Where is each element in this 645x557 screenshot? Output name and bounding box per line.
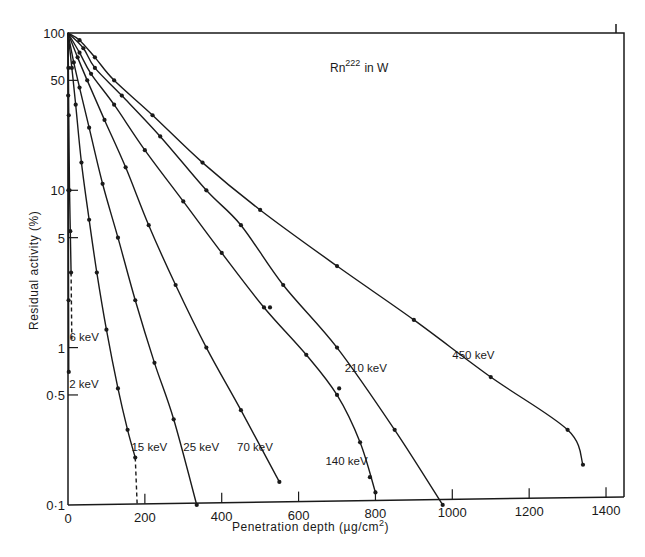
data-point <box>174 283 178 287</box>
series-group: 2 keV6 keV15 keV25 keV70 keV140 keV210 k… <box>66 33 585 507</box>
x-tick-label: 200 <box>134 510 156 525</box>
plot-frame <box>68 24 624 505</box>
data-point <box>95 270 99 274</box>
y-tick-label: 5 <box>58 231 65 246</box>
y-tick-label: 100 <box>43 26 65 41</box>
data-point <box>373 490 377 494</box>
series-label: 140 keV <box>325 455 368 467</box>
data-point <box>93 66 97 70</box>
data-point <box>74 103 78 107</box>
data-point <box>124 165 128 169</box>
data-point <box>77 85 81 89</box>
data-point <box>87 126 91 130</box>
curve-line <box>68 33 443 505</box>
data-point <box>220 251 224 255</box>
data-point <box>77 38 81 42</box>
data-point <box>93 55 97 59</box>
data-point <box>239 223 243 227</box>
data-point <box>158 134 162 138</box>
data-point <box>87 218 91 222</box>
data-point <box>412 318 416 322</box>
data-point <box>116 236 120 240</box>
data-point <box>116 386 120 390</box>
x-tick-label: 1200 <box>515 504 544 519</box>
series-70-kev: 70 keV <box>68 33 281 484</box>
series-450-kev: 450 keV <box>68 33 585 467</box>
series-label: 25 keV <box>183 441 219 453</box>
data-point <box>79 161 83 165</box>
series-label: 2 keV <box>69 378 99 390</box>
x-tick-label: 1000 <box>438 505 467 520</box>
y-tick-label: 50 <box>51 73 65 88</box>
data-point <box>195 503 199 507</box>
series-140-kev: 140 keV <box>68 33 378 495</box>
data-point <box>147 223 151 227</box>
series-25-kev: 25 keV <box>68 33 219 507</box>
curve-line <box>68 33 279 482</box>
data-point <box>152 361 156 365</box>
data-point <box>66 298 70 302</box>
data-point <box>85 78 89 82</box>
series-label: 70 keV <box>237 441 273 453</box>
data-point <box>258 208 262 212</box>
data-point <box>150 113 154 117</box>
series-210-kev: 210 keV <box>68 33 445 507</box>
data-point <box>120 93 124 97</box>
data-point <box>441 503 445 507</box>
series-label: 6 keV <box>70 331 100 343</box>
data-point <box>581 463 585 467</box>
data-point <box>133 298 137 302</box>
y-tick-label: 0·1 <box>46 498 65 513</box>
frame-border <box>68 24 624 505</box>
data-point <box>335 264 339 268</box>
data-point <box>281 283 285 287</box>
data-point <box>77 51 81 55</box>
data-point <box>304 353 308 357</box>
data-point <box>200 161 204 165</box>
curve-dashed-tail <box>135 458 137 505</box>
data-point <box>67 188 71 192</box>
data-point <box>72 60 76 64</box>
x-axis-title: Penetration depth (µg/cm2) <box>232 518 389 534</box>
data-point <box>67 370 71 374</box>
y-tick-label: 1 <box>58 341 65 356</box>
data-point-offcurve <box>337 386 341 390</box>
curve-line <box>68 33 197 505</box>
series-label: 15 keV <box>131 441 167 453</box>
data-point <box>277 480 281 484</box>
data-point <box>204 188 208 192</box>
x-tick-label: 400 <box>211 509 233 524</box>
curve-line <box>68 33 135 458</box>
data-point <box>67 113 71 117</box>
data-point <box>358 440 362 444</box>
y-axis: 1005010510·50·1 <box>43 26 78 513</box>
data-point <box>102 118 106 122</box>
curve-line <box>68 33 375 492</box>
data-point <box>565 428 569 432</box>
data-point <box>89 72 93 76</box>
data-point <box>81 46 85 50</box>
data-point <box>172 417 176 421</box>
series-label: 210 keV <box>345 362 388 374</box>
data-point <box>262 305 266 309</box>
data-point <box>76 55 80 59</box>
data-point <box>239 408 243 412</box>
data-point <box>104 328 108 332</box>
data-point <box>181 199 185 203</box>
data-point <box>70 66 74 70</box>
data-point <box>393 428 397 432</box>
data-point <box>68 229 72 233</box>
data-point <box>335 346 339 350</box>
x-tick-label: 0 <box>64 511 71 526</box>
x-tick-label: 1400 <box>592 503 621 518</box>
chart-title: Rn222in W <box>330 58 389 75</box>
data-point <box>112 78 116 82</box>
curve-line <box>68 33 583 465</box>
data-point <box>125 428 129 432</box>
residual-activity-chart: 0200400600800100012001400 1005010510·50·… <box>0 0 645 557</box>
data-point <box>143 148 147 152</box>
data-point <box>489 375 493 379</box>
y-tick-label: 0·5 <box>46 388 65 403</box>
series-label: 450 keV <box>452 349 495 361</box>
data-point <box>335 393 339 397</box>
